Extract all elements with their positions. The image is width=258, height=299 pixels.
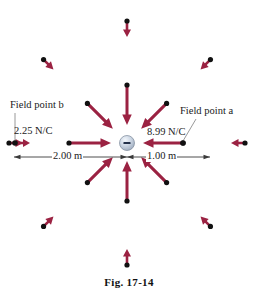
outer-vector-upper-right — [201, 57, 213, 69]
inner-vector-up-arrow — [122, 85, 132, 125]
outer-vector-down-source-dot — [124, 262, 129, 267]
inner-vector-down-arrow — [122, 161, 132, 201]
outer-vector-upper-left-source-dot — [41, 57, 46, 62]
electric-field-diagram — [0, 0, 258, 299]
charge-minus-sign-icon — [123, 142, 130, 144]
field-point-b-vector — [17, 139, 30, 147]
figure-container: Field point b 2.25 N/C Field point a 8.9… — [0, 0, 258, 299]
inner-vector-upper-left-source-dot — [85, 101, 90, 106]
field-point-b-dot — [12, 140, 18, 146]
inner-vector-up-source-dot — [124, 82, 129, 87]
inner-vector-upper-right-source-dot — [164, 101, 169, 106]
outer-vector-lower-left-source-dot — [41, 224, 46, 229]
inner-vector-upper-left — [85, 101, 113, 129]
outer-vector-lower-left — [41, 217, 53, 229]
field-point-a-dot — [180, 140, 186, 146]
inner-vector-upper-left-arrow — [86, 102, 113, 129]
field-value-b-label: 2.25 N/C — [14, 126, 53, 137]
inner-vector-upper-right-arrow — [141, 102, 168, 129]
outer-vector-left-source-dot — [6, 140, 11, 145]
inner-vector-right-from-a — [143, 138, 186, 148]
inner-vector-lower-right-source-dot — [164, 180, 169, 185]
dimension-arrowhead-left-outer — [14, 155, 21, 160]
inner-vector-lower-left — [85, 157, 113, 185]
inner-vector-right-from-a-arrow — [143, 138, 183, 148]
field-value-a-label: 8.99 N/C — [147, 127, 186, 138]
outer-vector-up-source-dot — [124, 18, 129, 23]
inner-vector-left-from-b-arrow — [69, 138, 111, 148]
outer-vector-upper-left — [41, 57, 53, 69]
inner-vector-lower-left-arrow — [86, 157, 113, 184]
dimension-arrowhead-right-outer — [204, 155, 211, 160]
inner-vector-upper-right — [141, 101, 169, 129]
outer-vector-right-source-dot — [242, 140, 247, 145]
outer-vector-upper-right-source-dot — [208, 57, 213, 62]
inner-vector-left-from-b — [66, 138, 111, 148]
outer-vector-down — [123, 249, 131, 268]
inner-vector-down — [122, 161, 132, 204]
inner-vector-up — [122, 82, 132, 125]
field-point-a-label: Field point a — [180, 106, 233, 117]
central-negative-charge — [120, 136, 135, 151]
outer-vector-lower-right-source-dot — [208, 224, 213, 229]
outer-vector-lower-right — [201, 217, 213, 229]
figure-caption: Fig. 17-14 — [0, 276, 258, 288]
distance-a-label: 1.00 m — [146, 151, 177, 162]
outer-vector-right — [231, 139, 248, 147]
dimension-arrowhead-right-inner — [127, 155, 134, 160]
distance-b-label: 2.00 m — [52, 151, 83, 162]
inner-vector-lower-left-source-dot — [85, 180, 90, 185]
dimension-arrowhead-left-inner — [121, 155, 128, 160]
field-point-b-label: Field point b — [10, 100, 64, 111]
outer-vector-up — [123, 18, 131, 37]
inner-vector-down-source-dot — [124, 198, 129, 203]
inner-vector-left-from-b-source-dot — [66, 140, 71, 145]
